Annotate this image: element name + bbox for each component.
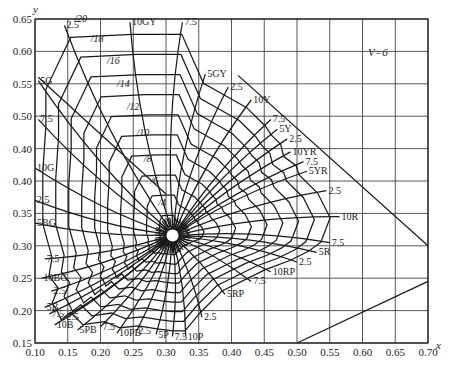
- x-tick-label: 0.60: [353, 346, 373, 358]
- hue-label: 7.5: [332, 237, 345, 248]
- hue-label: 7.5: [47, 253, 60, 264]
- hue-label: 10PB: [119, 327, 142, 338]
- hue-label: 5B: [47, 301, 59, 312]
- hue-label: 10GY: [132, 16, 156, 27]
- hue-label: 10G: [37, 162, 54, 173]
- hue-label: 7.5: [253, 275, 266, 286]
- hue-label: 5RP: [227, 288, 245, 299]
- chroma-label: /14: [116, 78, 130, 89]
- x-tick-label: 0.55: [320, 346, 340, 358]
- hue-label: 10BG: [44, 272, 68, 283]
- x-tick-label: 0.25: [124, 346, 144, 358]
- chroma-label: /20: [73, 13, 87, 24]
- y-tick-label: 0.20: [13, 305, 33, 317]
- chroma-label: /10: [136, 127, 150, 138]
- chroma-label: /6: [149, 175, 158, 186]
- hue-label: 10B: [57, 319, 74, 330]
- x-tick-label: 0.20: [91, 346, 111, 358]
- chroma-label: /12: [126, 101, 140, 112]
- hue-label: 2.5: [299, 256, 312, 267]
- hue-label: 5R: [319, 246, 331, 257]
- chroma-label: /2: [168, 217, 177, 228]
- x-tick-label: 0.45: [255, 346, 275, 358]
- x-tick-label: 0.50: [287, 346, 307, 358]
- y-tick-label: 0.65: [13, 13, 33, 25]
- x-tick-label: 0.40: [222, 346, 242, 358]
- hue-label: 2.5: [37, 194, 50, 205]
- y-tick-label: 0.40: [13, 143, 33, 155]
- x-axis-name: x: [435, 339, 441, 351]
- hue-label: 5G: [40, 75, 52, 86]
- hue-label: 10R: [342, 211, 359, 222]
- hue-label: 7.5: [175, 331, 188, 342]
- y-tick-label: 0.40: [13, 175, 33, 187]
- x-tick-label: 0.30: [156, 346, 176, 358]
- hue-label: 10P: [188, 331, 204, 342]
- x-tick-label: 0.65: [386, 346, 406, 358]
- hue-label: 5P: [158, 329, 169, 340]
- hue-label: 7.5: [184, 16, 197, 27]
- y-tick-label: 0.35: [13, 207, 33, 219]
- hue-chroma-labels: 2.510GY7.55GY2.510Y7.55Y2.510YR7.55YR2.5…: [37, 13, 359, 341]
- hue-label: 5YR: [309, 165, 328, 176]
- y-tick-label: 0.50: [13, 110, 33, 122]
- hue-label: 2.5: [328, 185, 341, 196]
- hue-label: 2.5: [53, 285, 66, 296]
- y-tick-label: 0.55: [13, 78, 33, 90]
- hue-label: 5GY: [207, 68, 226, 79]
- y-axis-name: y: [32, 3, 38, 15]
- chroma-label: /16: [106, 55, 120, 66]
- hue-label: 2.5: [204, 311, 217, 322]
- hue-label: 10Y: [253, 94, 270, 105]
- x-tick-label: 0.35: [189, 346, 209, 358]
- hue-label: 5PB: [80, 324, 98, 335]
- y-tick-label: 0.15: [13, 337, 33, 349]
- hue-label: 7.5: [103, 321, 116, 332]
- chroma-label: /18: [90, 33, 104, 44]
- hue-label: 5BG: [37, 217, 56, 228]
- hue-label: 10RP: [273, 266, 296, 277]
- chroma-label: /8: [143, 153, 152, 164]
- hue-label: 2.5: [230, 81, 243, 92]
- value-annotation: V=6: [368, 46, 388, 58]
- hue-label: 7.5: [40, 113, 53, 124]
- y-tick-label: 0.25: [13, 272, 33, 284]
- y-tick-label: 0.30: [13, 240, 33, 252]
- y-tick-label: 0.60: [13, 45, 33, 57]
- chroma-label: /4: [157, 197, 166, 208]
- x-tick-label: 0.15: [58, 346, 78, 358]
- hue-label: 2.5: [289, 133, 302, 144]
- munsell-chromaticity-chart: 2.510GY7.55GY2.510Y7.55Y2.510YR7.55YR2.5…: [0, 0, 453, 366]
